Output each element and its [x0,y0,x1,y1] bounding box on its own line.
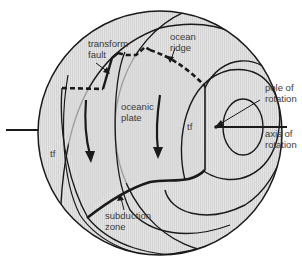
label-subduction-zone: subduction zone [105,210,151,232]
label-axis-of-rotation: axis of rotation [265,128,297,150]
label-tf-left: tf [50,148,55,159]
label-tf-right: tf [187,121,192,132]
label-transform-fault: transform fault [88,38,128,60]
label-pole-of-rotation: pole of rotation [265,82,297,104]
plate-rotation-diagram [0,0,302,259]
pole-point [214,125,218,129]
label-oceanic-plate: oceanic plate [121,101,154,123]
label-ocean-ridge: ocean ridge [170,31,196,53]
